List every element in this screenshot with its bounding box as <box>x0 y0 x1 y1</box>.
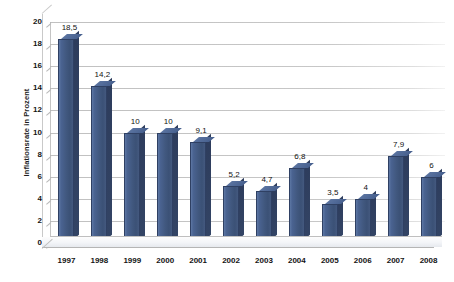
bar <box>124 133 140 244</box>
bar-side-face <box>239 177 244 239</box>
bar-value-label: 14,2 <box>82 70 122 79</box>
x-tick-label: 2008 <box>409 256 449 265</box>
bar-value-label: 9,1 <box>181 126 221 135</box>
plot-floor-surface <box>42 237 442 247</box>
bar-front-face <box>157 133 173 244</box>
bar <box>223 186 239 243</box>
bar-side-face <box>437 169 442 239</box>
bar <box>421 177 437 243</box>
bar-front-face <box>388 156 404 243</box>
bar-side-face <box>206 134 211 239</box>
bar-side-face <box>404 148 409 239</box>
bar-value-label: 18,5 <box>49 23 89 32</box>
bar <box>289 168 305 243</box>
bar-side-face <box>140 124 145 239</box>
bar-side-face <box>305 160 310 239</box>
gridline <box>50 44 445 45</box>
bar <box>190 142 206 243</box>
bar-value-label: 6 <box>412 161 452 170</box>
inflation-bar-chart: Inflationsrate in Prozent 02468101214161… <box>0 0 454 282</box>
gridline <box>50 22 445 23</box>
bar-value-label: 7,9 <box>379 140 419 149</box>
plot-floor-back-edge <box>50 236 442 237</box>
bar-front-face <box>91 86 107 243</box>
bar-value-label: 6,8 <box>280 152 320 161</box>
bar-front-face <box>58 39 74 243</box>
y-tick-label: 0 <box>14 238 42 247</box>
plot-floor <box>42 236 442 248</box>
plot-area: 18,514,210109,15,24,76,83,547,96 <box>50 22 445 243</box>
bar <box>388 156 404 243</box>
bar-front-face <box>190 142 206 243</box>
bar <box>91 86 107 243</box>
y-tick-label: 18 <box>14 39 42 48</box>
bar-front-face <box>223 186 239 243</box>
gridline <box>50 66 445 67</box>
bar-side-face <box>173 124 178 239</box>
bar-front-face <box>289 168 305 243</box>
plot-floor-front-edge <box>42 247 434 248</box>
bar-front-face <box>124 133 140 244</box>
y-axis-title: Inflationsrate in Prozent <box>22 53 31 213</box>
bar-front-face <box>421 177 437 243</box>
plot-floor-left-edge <box>42 236 52 248</box>
bar <box>157 133 173 244</box>
bar-side-face <box>74 30 79 239</box>
bar-side-face <box>107 78 112 239</box>
y-tick-label: 2 <box>14 216 42 225</box>
bar-value-label: 10 <box>148 117 188 126</box>
bar-value-label: 4 <box>346 183 386 192</box>
x-axis-labels: 1997199819992000200120022003200420052006… <box>0 256 454 270</box>
y-tick-label: 20 <box>14 17 42 26</box>
bar-side-face <box>272 183 277 239</box>
bar-value-label: 4,7 <box>247 175 287 184</box>
bar <box>58 39 74 243</box>
